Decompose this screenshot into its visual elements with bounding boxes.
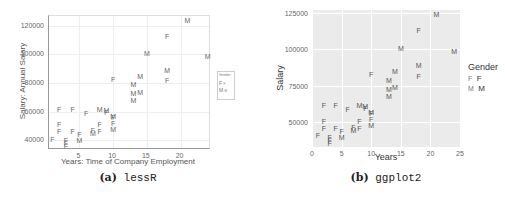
ggplot2-caption: (b) ggplot2 (351, 171, 422, 184)
data-point-f: F (57, 105, 61, 112)
data-point-f: F (322, 125, 326, 132)
ggplot2-legend-entry-f: F F (468, 74, 498, 83)
y-tick-label: 50000 (289, 119, 308, 126)
grid-line-x (430, 10, 431, 147)
ggplot2-y-axis-label: Salary (275, 65, 285, 91)
data-point-f: F (316, 132, 320, 139)
grid-line-y (49, 26, 209, 27)
data-point-m: M (339, 133, 345, 140)
x-tick-label: 20 (176, 152, 184, 159)
data-point-f: F (322, 101, 326, 108)
data-point-m: M (184, 17, 190, 24)
data-point-m: M (386, 76, 392, 83)
y-tick-label: 80000 (25, 79, 44, 86)
grid-line-x (79, 16, 80, 148)
lessr-legend-entry-m: M M (219, 87, 233, 93)
data-point-m: M (205, 52, 211, 59)
x-tick-label: 0 (310, 150, 314, 157)
grid-line-y (312, 49, 460, 50)
x-tick-label: 25 (456, 150, 464, 157)
x-tick-label: 10 (367, 150, 375, 157)
data-point-m: M (451, 47, 457, 54)
y-tick-label: 100000 (21, 50, 44, 57)
data-point-m: M (130, 81, 136, 88)
data-point-f: F (57, 128, 61, 135)
data-point-m: M (164, 67, 170, 74)
lessr-legend-entry-f: F F (219, 80, 233, 86)
data-point-m: M (130, 89, 136, 96)
ggplot2-plot-area: FFFFFFFFFFMFFMMFFMFMFFMFMMMMMMFMFMM (312, 10, 460, 147)
grid-line-y (49, 54, 209, 55)
data-point-m: M (90, 129, 96, 136)
lessr-plot-area: FFFFFFFFFFMFFMMFFMFMFFMFMMMMMMFMFMM (48, 15, 210, 149)
data-point-m: M (351, 126, 357, 133)
data-point-f: F (165, 77, 169, 84)
data-point-f: F (334, 101, 338, 108)
y-tick-label: 40000 (25, 136, 44, 143)
ggplot2-legend-entry-m: M M (468, 84, 498, 93)
data-point-f: F (322, 117, 326, 124)
y-tick-label: 120000 (21, 21, 44, 28)
ggplot2-x-axis-label: Years (375, 152, 398, 162)
x-tick-label: 20 (426, 150, 434, 157)
data-point-f: F (104, 108, 108, 115)
x-tick-label: 5 (76, 152, 80, 159)
grid-line-y (49, 83, 209, 84)
lessr-caption: (a) lessR (99, 171, 156, 184)
grid-line-x (342, 10, 343, 147)
y-tick-label: 75000 (289, 82, 308, 89)
data-point-f: F (50, 135, 54, 142)
grid-line-x (460, 10, 461, 147)
data-point-m: M (398, 44, 404, 51)
x-tick-label: 10 (108, 152, 116, 159)
grid-line-x (181, 16, 182, 148)
data-point-f: F (334, 125, 338, 132)
lessr-legend: Gender F F M M (217, 71, 235, 100)
lessr-legend-title: Gender (219, 73, 233, 77)
x-tick-label: 15 (142, 152, 150, 159)
grid-line-y (312, 122, 460, 123)
data-point-m: M (392, 68, 398, 75)
data-point-f: F (357, 125, 361, 132)
data-point-f: F (345, 106, 349, 113)
data-point-f: F (57, 121, 61, 128)
data-point-m: M (392, 84, 398, 91)
data-point-m: M (144, 50, 150, 57)
data-point-f: F (64, 142, 68, 149)
data-point-f: F (363, 104, 367, 111)
x-tick-label: 5 (340, 150, 344, 157)
data-point-m: M (386, 92, 392, 99)
panel-ggplot2: FFFFFFFFFFMFFMMFFMFMFFMFMMMMMMFMFMM Sala… (250, 0, 505, 198)
data-point-f: F (84, 109, 88, 116)
grid-line-x (312, 10, 313, 147)
data-point-m: M (368, 122, 374, 129)
y-tick-label: 125000 (285, 9, 308, 16)
data-point-m: M (97, 105, 103, 112)
data-point-m: M (110, 125, 116, 132)
data-point-f: F (70, 128, 74, 135)
data-point-f: F (97, 121, 101, 128)
data-point-m: M (130, 97, 136, 104)
data-point-f: F (369, 71, 373, 78)
data-point-f: F (111, 75, 115, 82)
panel-lessr: FFFFFFFFFFMFFMMFFMFMFFMFMMMMMMFMFMM Sala… (0, 0, 250, 198)
data-point-f: F (70, 105, 74, 112)
data-point-f: F (97, 128, 101, 135)
data-point-f: F (357, 117, 361, 124)
data-point-f: F (416, 72, 420, 79)
ggplot2-legend-title: Gender (468, 62, 498, 72)
grid-line-y (49, 140, 209, 141)
data-point-m: M (76, 137, 82, 144)
grid-line-x (147, 16, 148, 148)
data-point-f: F (165, 32, 169, 39)
data-point-m: M (416, 62, 422, 69)
grid-line-x (401, 10, 402, 147)
data-point-m: M (137, 72, 143, 79)
data-point-f: F (416, 27, 420, 34)
y-tick-label: 100000 (285, 46, 308, 53)
data-point-m: M (433, 11, 439, 18)
data-point-f: F (328, 139, 332, 146)
y-tick-label: 60000 (25, 107, 44, 114)
x-tick-label: 15 (397, 150, 405, 157)
data-point-m: M (137, 88, 143, 95)
